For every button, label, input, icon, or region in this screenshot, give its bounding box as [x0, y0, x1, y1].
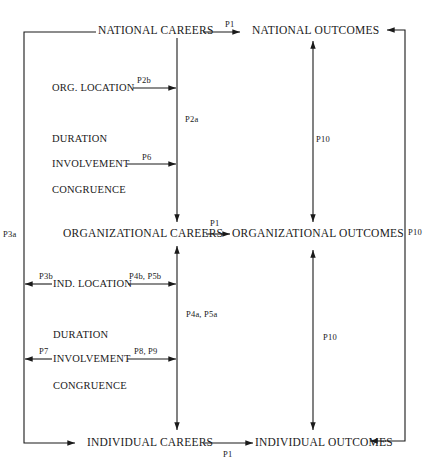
path-label-p2a: P2a [185, 115, 198, 124]
path-label-p7: P7 [39, 347, 48, 356]
node-organizational-careers: ORGANIZATIONAL CAREERS [63, 228, 223, 240]
org-location-label: ORG. LOCATION [52, 83, 135, 94]
node-national-careers: NATIONAL CAREERS [98, 25, 214, 37]
path-label-p8-p9: P8, P9 [134, 347, 157, 356]
path-label-p10-right: P10 [408, 228, 422, 237]
ind-location-label: IND. LOCATION [53, 279, 132, 290]
org-duration-label: DURATION [52, 134, 107, 145]
path-label-p2b: P2b [137, 76, 151, 85]
path-label-p6: P6 [142, 153, 151, 162]
path-label-p10-lower: P10 [323, 333, 337, 342]
path-label-p4b-p5b: P4b, P5b [129, 272, 161, 281]
ind-congruence-label: CONGRUENCE [53, 381, 127, 392]
node-organizational-outcomes: ORGANIZATIONAL OUTCOMES [232, 228, 404, 240]
node-individual-careers: INDIVIDUAL CAREERS [87, 437, 213, 449]
path-label-p3a: P3a [3, 230, 16, 239]
ind-involvement-label: INVOLVEMENT [53, 354, 131, 365]
path-label-p3b: P3b [39, 272, 53, 281]
node-individual-outcomes: INDIVIDUAL OUTCOMES [255, 437, 393, 449]
path-label-p1-individual: P1 [223, 450, 232, 459]
org-congruence-label: CONGRUENCE [52, 185, 126, 196]
path-label-p1-national: P1 [225, 20, 234, 29]
node-national-outcomes: NATIONAL OUTCOMES [252, 25, 379, 37]
org-involvement-label: INVOLVEMENT [52, 159, 130, 170]
path-label-p1-organizational: P1 [210, 219, 219, 228]
path-label-p10-upper: P10 [316, 135, 330, 144]
ind-duration-label: DURATION [53, 330, 108, 341]
path-label-p4a-p5a: P4a, P5a [186, 310, 217, 319]
